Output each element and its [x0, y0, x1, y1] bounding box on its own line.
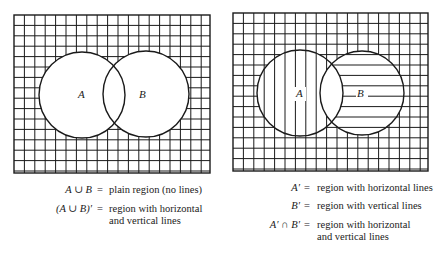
left-label-a: A: [77, 88, 85, 100]
caption-lhs: A′ ∩ B′: [240, 219, 300, 231]
left-label-b: B: [139, 88, 146, 100]
caption-rhs-line2: and vertical lines: [317, 231, 389, 243]
right-label-a: A: [295, 87, 303, 99]
right-venn-diagram: A B: [233, 13, 428, 171]
caption-equals: =: [304, 219, 310, 231]
caption-lhs: (A ∪ B)′: [30, 203, 92, 215]
caption-equals: =: [97, 184, 103, 196]
caption-equals: =: [97, 203, 103, 215]
left-venn-diagram: A B: [14, 15, 210, 173]
caption-rhs-line2: and vertical lines: [109, 215, 181, 227]
caption-rhs: region with vertical lines: [317, 200, 422, 212]
caption-rhs: region with horizontal lines: [317, 182, 433, 194]
right-label-b: B: [357, 87, 364, 99]
caption-lhs: B′: [240, 200, 300, 212]
caption-equals: =: [304, 200, 310, 212]
caption-rhs: plain region (no lines): [109, 184, 202, 196]
caption-lhs: A ∪ B: [30, 184, 92, 196]
caption-lhs: A′: [240, 182, 300, 194]
caption-rhs-line1: region with horizontal: [317, 219, 410, 231]
caption-equals: =: [304, 182, 310, 194]
caption-rhs-line1: region with horizontal: [109, 203, 202, 215]
